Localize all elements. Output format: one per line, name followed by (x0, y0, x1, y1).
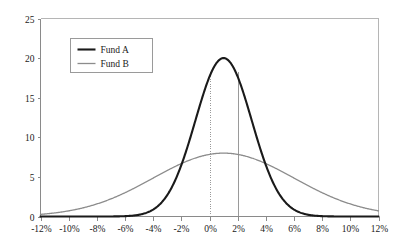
distribution-chart: 0510152025 -12%-10%-8%-6%-4%-2%0%2%4%6%8… (0, 0, 396, 252)
x-axis-tick-label: 10% (342, 224, 360, 234)
y-axis-labels-group: 0510152025 (25, 15, 35, 223)
series-line-fund-b (41, 153, 379, 214)
x-axis-tick-label: 2% (232, 224, 245, 234)
x-axis-tick-label: 6% (288, 224, 301, 234)
y-axis-tick-label: 10 (25, 133, 35, 143)
data-series-group (41, 58, 379, 216)
x-axis-labels-group: -12%-10%-8%-6%-4%-2%0%2%4%6%8%10%12% (31, 224, 388, 234)
x-axis-tick-label: 0% (204, 224, 217, 234)
chart-legend: Fund AFund B (71, 39, 153, 73)
reference-lines-group (211, 72, 239, 216)
y-axis-tick-label: 20 (25, 54, 35, 64)
y-axis-tick-label: 25 (25, 15, 35, 25)
x-axis-tick-label: 12% (371, 224, 389, 234)
x-axis-tick-label: -4% (146, 224, 162, 234)
x-axis-tick-label: 8% (316, 224, 329, 234)
x-axis-tick-label: -8% (90, 224, 106, 234)
y-axis-tick-label: 15 (25, 94, 35, 104)
y-axis-tick-label: 0 (30, 213, 35, 223)
x-axis-tick-label: -6% (118, 224, 134, 234)
x-axis-tick-label: -10% (59, 224, 80, 234)
legend-label-fund-b: Fund B (101, 59, 129, 69)
series-line-fund-a (41, 58, 379, 216)
chart-svg: 0510152025 -12%-10%-8%-6%-4%-2%0%2%4%6%8… (0, 0, 396, 252)
legend-label-fund-a: Fund A (101, 45, 129, 55)
y-axis-tick-label: 5 (30, 173, 35, 183)
x-axis-tick-label: -2% (174, 224, 190, 234)
x-axis-tick-label: 4% (260, 224, 273, 234)
x-axis-tick-label: -12% (31, 224, 52, 234)
